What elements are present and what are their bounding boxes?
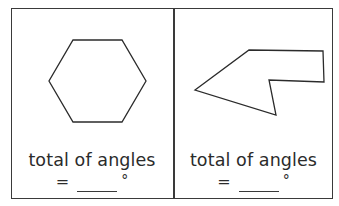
regular-hexagon-shape xyxy=(11,8,173,148)
irregular-hexagon-shape xyxy=(174,8,333,148)
caption-total-of-angles: total of angles xyxy=(11,150,173,170)
answer-line: =° xyxy=(11,172,173,192)
degree-symbol: ° xyxy=(283,170,290,190)
answer-blank[interactable] xyxy=(77,173,117,192)
equals-sign: = xyxy=(217,172,230,192)
answer-blank[interactable] xyxy=(239,173,279,192)
degree-symbol: ° xyxy=(121,170,128,190)
answer-line: =° xyxy=(174,172,333,192)
equals-sign: = xyxy=(56,172,69,192)
panel-regular-hexagon: total of angles =° xyxy=(11,8,173,199)
caption-total-of-angles: total of angles xyxy=(174,150,333,170)
panel-irregular-hexagon: total of angles =° xyxy=(174,8,333,199)
